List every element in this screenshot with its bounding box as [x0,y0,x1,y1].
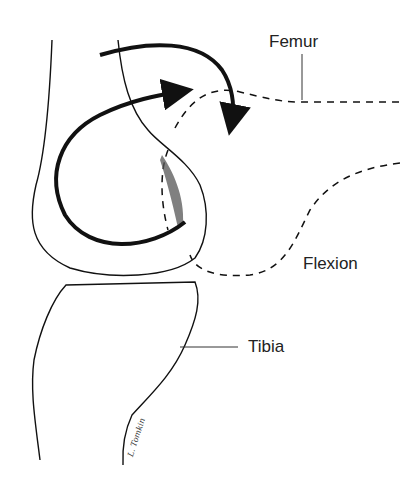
label-tibia: Tibia [248,337,284,357]
tibia-outline [33,282,198,465]
contact-area-shading [160,155,183,228]
label-flexion: Flexion [303,254,358,274]
knee-diagram [0,0,419,482]
label-femur: Femur [269,32,318,52]
femur-flexion-outline [162,90,400,275]
